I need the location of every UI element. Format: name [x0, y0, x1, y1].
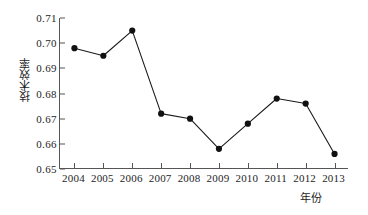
y-axis-tick-mark	[60, 118, 65, 119]
x-axis-tick-label: 2012	[293, 172, 316, 184]
x-axis-tick-mark	[190, 163, 191, 168]
x-axis-tick-mark	[306, 163, 307, 168]
x-axis-tick-label: 2011	[265, 172, 287, 184]
x-axis-tick-label: 2004	[62, 172, 85, 184]
line-chart-series	[60, 18, 349, 169]
y-axis-tick-mark	[60, 43, 65, 44]
x-axis-tick-label: 2006	[120, 172, 143, 184]
data-point-marker	[245, 121, 251, 127]
x-axis-tick-mark	[277, 163, 278, 168]
data-point-marker	[100, 53, 106, 59]
y-axis-tick-label: 0.65	[36, 164, 57, 175]
x-axis-tick-label: 2007	[149, 172, 172, 184]
chart-figure: 技术效率 0.650.660.670.680.690.700.71 200420…	[0, 0, 368, 215]
x-axis-tick-label: 2008	[178, 172, 201, 184]
y-axis-tick-mark	[60, 93, 65, 94]
y-axis-tick-mark	[60, 143, 65, 144]
y-axis-tick-mark	[60, 18, 65, 19]
x-axis-tick-label: 2010	[235, 172, 258, 184]
x-axis-tick-mark	[248, 163, 249, 168]
x-axis-tick-label: 2009	[207, 172, 230, 184]
data-point-marker	[274, 95, 280, 101]
x-axis-tick-mark	[132, 163, 133, 168]
data-point-marker	[129, 27, 135, 33]
data-point-marker	[158, 111, 164, 117]
y-axis-tick-labels: 0.650.660.670.680.690.700.71	[27, 11, 57, 175]
x-axis-tick-label: 2013	[322, 172, 345, 184]
series-line-technical-efficiency	[74, 31, 334, 154]
x-axis-tick-mark	[219, 163, 220, 168]
data-point-marker	[187, 116, 193, 122]
x-axis-title: 年份	[300, 192, 322, 204]
y-axis-tick-label: 0.66	[36, 138, 57, 149]
x-axis-tick-mark	[103, 163, 104, 168]
y-axis-tick-mark	[60, 169, 65, 170]
y-axis-tick-label: 0.70	[36, 38, 57, 49]
x-axis-tick-mark	[74, 163, 75, 168]
y-axis-tick-label: 0.67	[36, 113, 57, 124]
y-axis-tick-label: 0.71	[36, 13, 57, 24]
y-axis-tick-label: 0.68	[36, 88, 57, 99]
x-axis-tick-labels: 2004200520062007200820092010201120122013	[59, 172, 348, 188]
y-axis-tick-mark	[60, 68, 65, 69]
y-axis-tick-label: 0.69	[36, 63, 57, 74]
x-axis-tick-mark	[335, 163, 336, 168]
data-point-marker	[71, 45, 77, 51]
data-point-marker	[331, 151, 337, 157]
series-markers	[71, 27, 337, 157]
data-point-marker	[216, 146, 222, 152]
x-axis-tick-label: 2005	[91, 172, 114, 184]
plot-area	[59, 18, 348, 169]
x-axis-tick-mark	[161, 163, 162, 168]
data-point-marker	[303, 100, 309, 106]
